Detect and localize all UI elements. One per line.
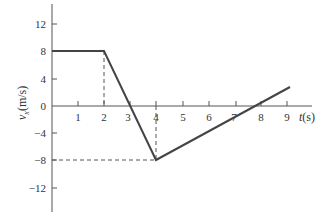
y-tick-0: 0: [41, 100, 47, 112]
y-tick-4: 4: [41, 73, 47, 85]
y-tick-12: 12: [35, 18, 46, 30]
y-tick-neg8: −8: [34, 154, 46, 166]
x-tick-5: 5: [180, 111, 186, 123]
x-tick-3: 3: [125, 111, 131, 123]
y-tick-labels: 12 8 4 0 −4 −8 −12: [29, 18, 47, 194]
velocity-time-chart: 12 8 4 0 −4 −8 −12 1 2 3 4 5 6 7 8 9 t(s…: [0, 0, 328, 217]
x-tick-9: 9: [284, 111, 290, 123]
y-axis-title: vx(m/s): [15, 86, 31, 120]
x-tick-2: 2: [101, 111, 107, 123]
x-tick-6: 6: [206, 111, 212, 123]
x-tick-8: 8: [258, 111, 264, 123]
y-tick-neg4: −4: [34, 127, 46, 139]
y-tick-neg12: −12: [29, 182, 46, 194]
y-tick-8: 8: [41, 45, 47, 57]
x-axis-title: t(s): [299, 110, 315, 124]
x-tick-labels: 1 2 3 4 5 6 7 8 9: [75, 111, 290, 123]
x-tick-1: 1: [75, 111, 81, 123]
